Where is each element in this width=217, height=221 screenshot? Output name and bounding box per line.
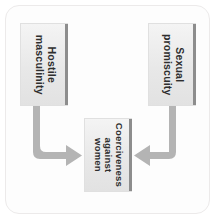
- node-hostile-masculinity-label: Hostile masculinity: [33, 35, 57, 95]
- node-sexual-promiscuity: Sexual promiscuity: [148, 23, 196, 106]
- node-sexual-promiscuity-label: Sexual promiscuity: [161, 34, 185, 96]
- node-hostile-masculinity: Hostile masculinity: [20, 23, 68, 106]
- node-coerciveness-against-women-label: Coerciveness against women: [93, 123, 125, 187]
- node-coerciveness-against-women: Coerciveness against women: [84, 118, 132, 192]
- diagram-canvas: Hostile masculinity Sexual promiscuity C…: [0, 0, 217, 221]
